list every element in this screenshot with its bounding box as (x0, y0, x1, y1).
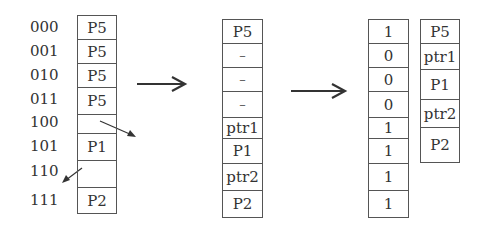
directory-cell: ptr2 (223, 164, 262, 191)
directory-cell: P2 (78, 188, 116, 213)
address-label: 000 (30, 19, 59, 35)
stage2-directory: P5 – – – ptr1 P1 ptr2 P2 (222, 19, 263, 218)
bitmap-cell: 0 (369, 92, 408, 118)
stage3-bitmap: 1 0 0 0 1 1 1 1 (368, 19, 409, 218)
compact-cell: P2 (421, 128, 459, 162)
directory-cell: P2 (223, 191, 262, 217)
directory-cell: P1 (78, 134, 116, 161)
directory-cell: P5 (78, 88, 116, 115)
bitmap-cell: 1 (369, 20, 408, 44)
directory-cell (78, 161, 116, 188)
bitmap-cell: 1 (369, 191, 408, 217)
address-label: 010 (30, 67, 59, 83)
directory-cell: – (223, 68, 262, 92)
transition-arrow-1 (137, 77, 185, 91)
compact-cell: P5 (421, 20, 459, 44)
address-label: 101 (30, 138, 59, 154)
address-label: 001 (30, 43, 59, 59)
bitmap-cell: 1 (369, 118, 408, 139)
address-label: 111 (30, 192, 59, 208)
transition-arrow-2 (291, 84, 345, 98)
compact-cell: P1 (421, 70, 459, 100)
directory-cell: P1 (223, 139, 262, 164)
directory-cell: – (223, 92, 262, 118)
bitmap-cell: 0 (369, 68, 408, 92)
directory-cell: – (223, 44, 262, 68)
bitmap-cell: 0 (369, 44, 408, 68)
directory-cell: ptr1 (223, 118, 262, 139)
bitmap-cell: 1 (369, 139, 408, 164)
address-label: 100 (30, 114, 59, 130)
directory-cell: P5 (78, 40, 116, 64)
address-label: 011 (30, 91, 59, 107)
directory-cell: P5 (223, 20, 262, 44)
directory-cell (78, 115, 116, 134)
compact-cell: ptr2 (421, 100, 459, 128)
bitmap-cell: 1 (369, 164, 408, 191)
address-label: 110 (30, 163, 59, 179)
compact-cell: ptr1 (421, 44, 459, 70)
directory-cell: P5 (78, 64, 116, 88)
stage1-directory: P5 P5 P5 P5 P1 P2 (77, 15, 117, 214)
directory-cell: P5 (78, 16, 116, 40)
stage3-compact-array: P5 ptr1 P1 ptr2 P2 (420, 19, 460, 163)
